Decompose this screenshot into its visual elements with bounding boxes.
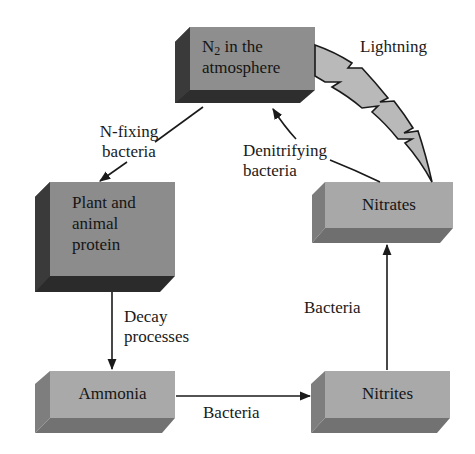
- n-fixing-line2: bacteria: [102, 142, 156, 161]
- denitrifying-line2: bacteria: [243, 161, 297, 180]
- decay-line2: processes: [124, 327, 189, 346]
- edge-n-fixing-label: N-fixing bacteria: [74, 122, 184, 162]
- node-n2-label: N2 in the atmosphere: [202, 36, 280, 78]
- node-ammonia-label: Ammonia: [50, 383, 175, 404]
- n2-line1-rest: in the: [220, 37, 263, 56]
- node-protein-label: Plant and animal protein: [72, 192, 136, 255]
- n2-prefix: N: [202, 37, 214, 56]
- edge-lightning-label: Lightning: [360, 37, 427, 57]
- n-fixing-line1: N-fixing: [100, 122, 159, 141]
- node-nitrites-label: Nitrites: [325, 383, 450, 404]
- denitrifying-line1: Denitrifying: [243, 141, 327, 160]
- protein-line3: protein: [72, 235, 120, 254]
- edge-nitrites-to-nitrates-label: Bacteria: [304, 298, 361, 318]
- decay-line1: Decay: [124, 307, 167, 326]
- edge-ammonia-to-nitrites-label: Bacteria: [203, 403, 260, 423]
- edge-denitrifying-label: Denitrifying bacteria: [243, 141, 327, 181]
- protein-line1: Plant and: [72, 193, 136, 212]
- node-nitrates-label: Nitrates: [325, 194, 453, 215]
- n2-line2: atmosphere: [202, 58, 280, 77]
- protein-line2: animal: [72, 214, 118, 233]
- edge-decay-label: Decay processes: [124, 307, 189, 347]
